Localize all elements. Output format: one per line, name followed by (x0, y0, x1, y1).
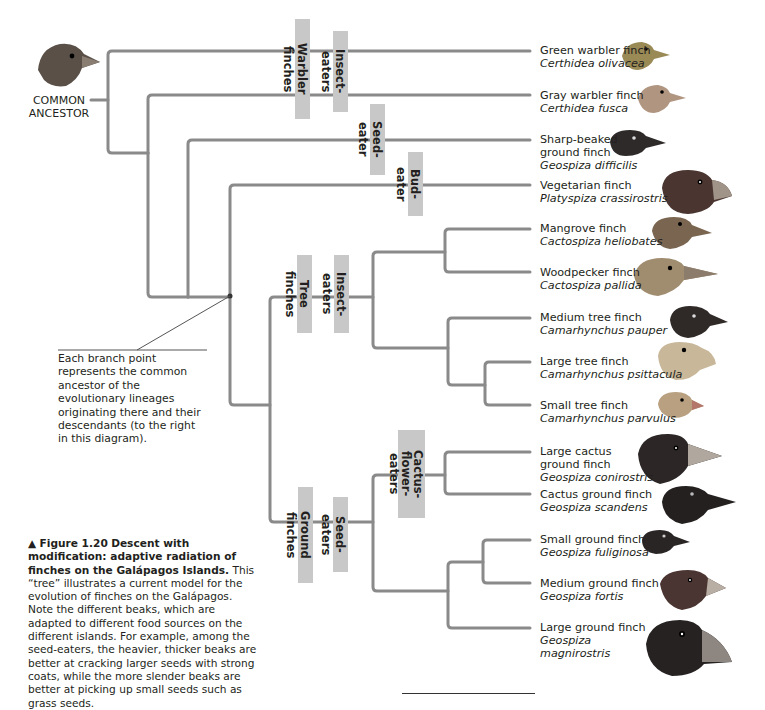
branch-tree-ground-split (270, 297, 373, 522)
branch-point-callout: Each branch point represents the common … (58, 352, 208, 446)
branch-medium-tree (448, 318, 530, 385)
finch-head-icon-gray-warbler (638, 85, 686, 113)
common-name: Green warbler finch (540, 44, 651, 57)
scientific-name: Camarhynchus parvulus (540, 412, 676, 425)
clade-label-insect-eaters-warbler: Insect-eaters (333, 31, 348, 112)
ancestor-label-line2: ANCESTOR (28, 107, 90, 120)
scientific-name: Camarhynchus psittacula (540, 368, 682, 381)
bottom-rule-divider (402, 693, 535, 694)
scientific-name: Geospiza conirostris (540, 471, 653, 484)
common-name-line1: Large cactus (540, 445, 653, 458)
clade-label-seed-eaters: Seed-eaters (333, 497, 348, 572)
scientific-name: Certhidea olivacea (540, 57, 651, 70)
caption-marker-icon: ▲ (28, 537, 36, 549)
branch-small-medium-ground (483, 540, 530, 583)
clade-label-bud-eater: Bud-eater (408, 152, 423, 216)
common-name-line1: Sharp-beaked (540, 133, 637, 146)
branch-large-small-tree (485, 362, 530, 405)
species-label-large-tree: Large tree finch Camarhynchus psittacula (540, 355, 682, 381)
species-label-medium-ground: Medium ground finch Geospiza fortis (540, 577, 659, 603)
common-name-line2: ground finch (540, 146, 637, 159)
common-name: Woodpecker finch (540, 266, 642, 279)
clade-label-warbler-finches: Warbler finches (295, 19, 310, 119)
finch-head-icon-vegetarian (662, 170, 732, 214)
species-label-woodpecker: Woodpecker finch Cactospiza pallida (540, 266, 642, 292)
finch-head-icon-small-ground (642, 530, 690, 554)
finch-head-icon-medium-ground (660, 570, 726, 610)
clade-label-tree-finches: Tree finches (297, 255, 312, 333)
scientific-name: Cactospiza pallida (540, 279, 642, 292)
species-label-medium-tree: Medium tree finch Camarhynchus pauper (540, 311, 667, 337)
common-name: Gray warbler finch (540, 89, 644, 102)
scientific-name-line1: Geospiza (540, 634, 646, 647)
common-name: Vegetarian finch (540, 179, 668, 192)
caption-figure-number: Figure 1.20 (40, 537, 108, 549)
clade-label-seed-eater: Seed-eater (370, 104, 385, 175)
species-label-vegetarian: Vegetarian finch Platyspiza crassirostri… (540, 179, 668, 205)
common-name: Large ground finch (540, 621, 646, 634)
scientific-name: Geospiza scandens (540, 501, 652, 514)
species-label-cactus-ground: Cactus ground finch Geospiza scandens (540, 488, 652, 514)
branch-node2-down (148, 153, 188, 297)
scientific-name: Cactospiza heliobates (540, 235, 662, 248)
common-name: Medium ground finch (540, 577, 659, 590)
common-name: Mangrove finch (540, 222, 662, 235)
clade-label-insect-eaters-tree: Insect-eaters (334, 255, 349, 333)
scientific-name: Geospiza fuliginosa (540, 546, 649, 559)
common-name: Large tree finch (540, 355, 682, 368)
branch-medium-large-ground (448, 562, 530, 628)
common-name: Cactus ground finch (540, 488, 652, 501)
cactus-flower-eaters-line1: Cactus-flower- (399, 450, 425, 498)
species-label-gray-warbler: Gray warbler finch Certhidea fusca (540, 89, 644, 115)
caption-body: This “tree” illustrates a current model … (28, 564, 256, 709)
callout-leader-line (137, 296, 230, 350)
scientific-name: Platyspiza crassirostris (540, 192, 668, 205)
scientific-name: Camarhynchus pauper (540, 324, 667, 337)
ancestor-finch-head-icon (38, 44, 100, 87)
species-label-sharp-beaked: Sharp-beaked ground finch Geospiza diffi… (540, 133, 637, 172)
scientific-name: Geospiza fortis (540, 590, 659, 603)
clade-label-cactus-flower-eaters: Cactus-flower- eaters (398, 430, 425, 518)
common-name: Small tree finch (540, 399, 676, 412)
finch-head-icon-medium-tree (670, 306, 728, 338)
species-label-small-ground: Small ground finch Geospiza fuliginosa (540, 533, 649, 559)
figure-caption: ▲ Figure 1.20 Descent with modification:… (28, 537, 260, 710)
branch-mangrove-woodpecker (445, 229, 530, 272)
species-label-large-ground: Large ground finch Geospiza magnirostris (540, 621, 646, 660)
scientific-name-line2: magnirostris (540, 647, 646, 660)
common-name-line2: ground finch (540, 458, 653, 471)
scientific-name: Geospiza difficilis (540, 159, 637, 172)
branch-cactus-finches (445, 452, 530, 494)
common-name: Small ground finch (540, 533, 649, 546)
common-ancestor-label: COMMON ANCESTOR (28, 94, 90, 120)
species-label-large-cactus: Large cactus ground finch Geospiza conir… (540, 445, 653, 484)
finch-head-icon-large-ground (646, 620, 732, 676)
species-label-small-tree: Small tree finch Camarhynchus parvulus (540, 399, 676, 425)
species-label-green-warbler: Green warbler finch Certhidea olivacea (540, 44, 651, 70)
cactus-flower-eaters-line2: eaters (387, 453, 401, 494)
branch-tree-finch-split (373, 252, 448, 348)
finch-head-icon-cactus-ground (662, 486, 736, 524)
clade-label-ground-finches: Ground finches (298, 487, 313, 583)
species-label-mangrove: Mangrove finch Cactospiza heliobates (540, 222, 662, 248)
ancestor-label-line1: COMMON (28, 94, 90, 107)
common-name: Medium tree finch (540, 311, 667, 324)
finch-head-icon-woodpecker (634, 258, 718, 296)
scientific-name: Certhidea fusca (540, 102, 644, 115)
